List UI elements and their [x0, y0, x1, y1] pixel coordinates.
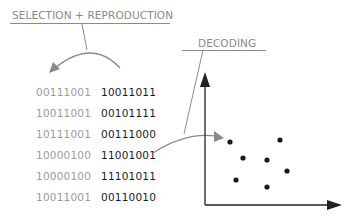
selection-arrowhead-icon [49, 62, 60, 73]
scatter-point [264, 157, 269, 162]
decoding-curved-arrow [153, 135, 216, 153]
scatter-points [227, 137, 289, 189]
scatter-point [284, 168, 289, 173]
scatter-point [227, 139, 232, 144]
y-axis-arrowhead-icon [200, 72, 210, 87]
selection-leader-line [82, 24, 87, 50]
selection-curved-arrow [55, 53, 120, 68]
diagram-graphics [0, 0, 360, 220]
scatter-point [240, 155, 245, 160]
x-axis-arrowhead-icon [327, 200, 342, 210]
decoding-leader-line [184, 50, 203, 134]
scatter-point [277, 137, 282, 142]
scatter-point [264, 184, 269, 189]
scatter-point [233, 177, 238, 182]
decoding-arrowhead-icon [214, 131, 224, 142]
